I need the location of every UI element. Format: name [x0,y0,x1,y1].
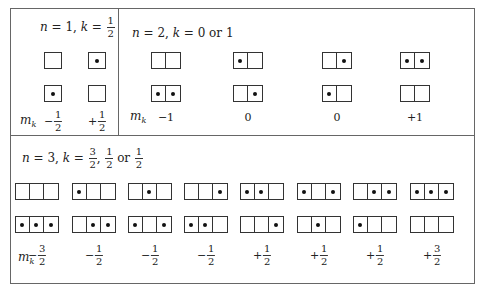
panel-divider-horizontal [10,135,475,136]
orbital-cell [368,184,382,199]
n3-mk-value: −12 [85,244,103,267]
n1-bottom-orbital-row [88,85,106,102]
panel-n1-mk-label: mk [20,113,36,129]
orbital-cell [354,184,368,199]
orbital-cell [213,217,227,232]
n2-top-orbital-row [151,52,182,69]
orbital-cell [199,217,213,232]
electron-dot-icon [358,223,362,227]
orbital-cell [368,217,382,232]
orbital-cell [298,217,312,232]
orbital-cell [89,53,105,68]
n2-mk-value: −1 [158,111,174,124]
n3-bottom-orbital-row [297,216,342,233]
orbital-cell [415,86,429,101]
orbital-cell [152,53,166,68]
orbital-cell [401,86,415,101]
electron-dot-icon [259,190,263,194]
n1-mk-value: −12 [44,110,62,133]
n3-bottom-orbital-row [128,216,173,233]
orbital-cell [87,217,101,232]
electron-dot-icon [415,190,419,194]
orbital-cell [152,86,166,101]
orbital-cell [44,217,58,232]
orbital-cell [425,217,439,232]
orbital-cell [30,217,44,232]
electron-dot-icon [316,223,320,227]
n3-bottom-orbital-row [410,216,455,233]
orbital-cell [45,86,61,101]
n3-mk-value: −12 [197,244,215,267]
electron-dot-icon [372,190,376,194]
n3-top-orbital-row [15,183,60,200]
n2-bottom-orbital-row [322,85,353,102]
panel-n2-title: n = 2, k = 0 or 1 [132,26,234,40]
electron-dot-icon [405,59,409,63]
electron-dot-icon [274,223,278,227]
n2-mk-value: +1 [407,111,423,124]
n3-bottom-orbital-row [15,216,60,233]
orbital-cell [44,184,58,199]
n3-bottom-orbital-row [240,216,285,233]
orbital-cell [234,86,248,101]
n3-top-orbital-row [128,183,173,200]
orbital-cell [45,53,61,68]
orbital-cell [415,53,429,68]
orbital-cell [213,184,227,199]
electron-dot-icon [49,223,53,227]
electron-dot-icon [51,92,55,96]
electron-dot-icon [302,190,306,194]
orbital-cell [30,184,44,199]
orbital-cell [166,86,180,101]
orbital-cell [312,184,326,199]
electron-dot-icon [203,223,207,227]
orbital-cell [157,217,171,232]
orbital-cell [129,217,143,232]
orbital-cell [16,217,30,232]
n1-mk-value: +12 [88,110,106,133]
orbital-cell [269,184,283,199]
electron-dot-icon [245,190,249,194]
electron-dot-icon [162,223,166,227]
n2-mk-value: 0 [245,111,252,124]
electron-dot-icon [342,59,346,63]
n3-top-orbital-row [72,183,117,200]
orbital-cell [101,217,115,232]
n2-top-orbital-row [400,52,431,69]
orbital-cell [269,217,283,232]
electron-dot-icon [156,92,160,96]
orbital-cell [323,86,337,101]
electron-dot-icon [444,190,448,194]
electron-dot-icon [253,92,257,96]
n3-top-orbital-row [297,183,342,200]
orbital-cell [101,184,115,199]
electron-dot-icon [387,190,391,194]
orbital-cell [382,217,396,232]
n3-top-orbital-row [353,183,398,200]
electron-dot-icon [133,223,137,227]
n1-top-orbital-row [88,52,106,69]
n3-bottom-orbital-row [353,216,398,233]
n3-mk-value: +12 [366,244,384,267]
orbital-cell [425,184,439,199]
orbital-cell [401,53,415,68]
orbital-cell [411,217,425,232]
orbital-cell [298,184,312,199]
orbital-cell [241,217,255,232]
electron-dot-icon [331,190,335,194]
orbital-cell [157,184,171,199]
figure-frame [10,8,475,284]
orbital-cell [16,184,30,199]
electron-dot-icon [189,223,193,227]
electron-dot-icon [34,223,38,227]
electron-dot-icon [20,223,24,227]
orbital-cell [312,217,326,232]
orbital-cell [73,217,87,232]
electron-dot-icon [77,190,81,194]
panel-n3-title: n = 3, k = 32, 12 or 12 [22,147,143,170]
orbital-cell [185,217,199,232]
n3-bottom-orbital-row [184,216,229,233]
orbital-cell [411,184,425,199]
orbital-cell [439,217,453,232]
orbital-cell [166,53,180,68]
